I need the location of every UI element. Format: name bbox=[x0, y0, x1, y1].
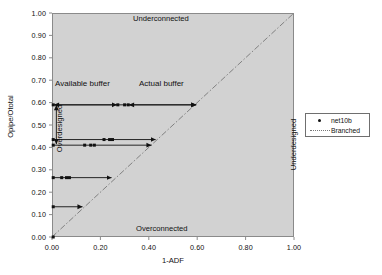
x-tick-label: 1.00 bbox=[274, 243, 314, 252]
zone-label-overconnected: Overconnected bbox=[136, 224, 188, 233]
y-tick-label: 0.20 bbox=[16, 188, 46, 197]
x-tick-label: 0.40 bbox=[129, 243, 169, 252]
y-tick-label: 1.00 bbox=[16, 9, 46, 18]
x-tick-label: 0.00 bbox=[32, 243, 72, 252]
annotation-actual-buffer: Actual buffer bbox=[139, 79, 184, 88]
y-tick-label: 0.10 bbox=[16, 210, 46, 219]
legend-label-0: net10b bbox=[331, 117, 352, 124]
y-axis-title: Opipe/Ototal bbox=[6, 87, 15, 147]
legend-marker-icon bbox=[309, 116, 331, 125]
zone-label-underdesigned: Underdesigned bbox=[289, 114, 298, 176]
zone-label-underconnected: Underconnected bbox=[133, 14, 189, 23]
x-axis-title: 1-ADF bbox=[152, 256, 194, 265]
legend-item-1: Branched bbox=[309, 125, 360, 136]
y-tick-label: 0.80 bbox=[16, 53, 46, 62]
chart-root: Opipe/Ototal 1-ADF Underconnected Overco… bbox=[0, 0, 382, 275]
legend-label-1: Branched bbox=[331, 127, 360, 134]
data-arrow-rows bbox=[53, 105, 196, 207]
legend-line-icon bbox=[309, 126, 331, 135]
annotation-arrows bbox=[55, 105, 196, 144]
zone-label-overdesigned: Overdesigned bbox=[55, 98, 64, 160]
y-tick-label: 0.70 bbox=[16, 76, 46, 85]
y-tick-label: 0.30 bbox=[16, 165, 46, 174]
y-tick-label: 0.40 bbox=[16, 143, 46, 152]
y-tick-label: 0.60 bbox=[16, 98, 46, 107]
legend: net10b Branched bbox=[305, 113, 370, 137]
y-tick-label: 0.50 bbox=[16, 121, 46, 130]
x-tick-label: 0.60 bbox=[177, 243, 217, 252]
reference-line bbox=[52, 13, 294, 237]
y-tick-label: 0.90 bbox=[16, 31, 46, 40]
y-tick-label: 0.00 bbox=[16, 233, 46, 242]
x-tick-label: 0.80 bbox=[226, 243, 266, 252]
x-tick-label: 0.20 bbox=[80, 243, 120, 252]
annotation-available-buffer: Available buffer bbox=[55, 79, 110, 88]
